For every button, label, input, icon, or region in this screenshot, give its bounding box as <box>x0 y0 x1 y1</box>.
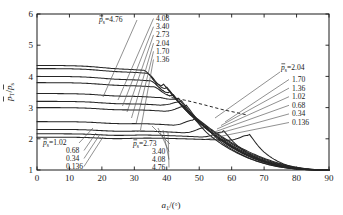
x-tick-label: 70 <box>260 173 270 183</box>
svg-text:ps=2.04: ps=2.04 <box>280 63 305 73</box>
annotation-value: 0.136 <box>292 118 309 127</box>
y-tick-label: 5 <box>29 40 34 50</box>
figure-container: 0102030405060708090 123456 ps=4.764.083.… <box>0 0 343 215</box>
y-tick-label: 1 <box>29 165 34 175</box>
x-tick-label: 90 <box>325 173 335 183</box>
annotation-value: 4.76 <box>152 163 165 172</box>
chart-canvas: 0102030405060708090 123456 ps=4.764.083.… <box>0 0 343 215</box>
x-tick-label: 30 <box>130 173 140 183</box>
svg-text:a1/(°): a1/(°) <box>161 200 180 211</box>
svg-text:ps=1.02: ps=1.02 <box>42 138 67 148</box>
x-tick-label: 80 <box>292 173 302 183</box>
annotation-label: ps=2.04 <box>280 63 305 73</box>
x-tick-label: 60 <box>227 173 237 183</box>
x-axis-title: a1/(°) <box>161 200 180 211</box>
y-tick-label: 2 <box>29 134 34 144</box>
svg-text:ps=4.76: ps=4.76 <box>98 15 123 25</box>
x-tick-label: 50 <box>195 173 205 183</box>
x-tick-label: 20 <box>97 173 107 183</box>
annotation-label: ps=4.76 <box>98 15 123 25</box>
y-tick-label: 4 <box>29 72 34 82</box>
x-tick-label: 0 <box>35 173 40 183</box>
annotation-value: 1.36 <box>156 55 169 64</box>
x-tick-label: 40 <box>162 173 172 183</box>
x-tick-label: 10 <box>65 173 75 183</box>
y-tick-label: 3 <box>29 103 34 113</box>
annotation-value: 0.136 <box>66 162 83 171</box>
y-tick-label: 6 <box>29 9 34 19</box>
annotation-label: ps=1.02 <box>42 138 67 148</box>
